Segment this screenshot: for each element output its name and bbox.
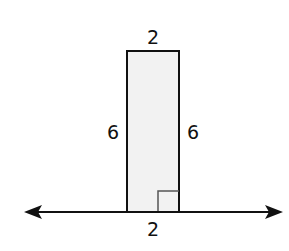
rectangle <box>127 51 179 212</box>
label-bottom: 2 <box>147 218 159 240</box>
label-top: 2 <box>147 26 159 48</box>
diagram-canvas: 2 6 6 2 <box>0 0 289 251</box>
label-left: 6 <box>107 121 119 143</box>
label-right: 6 <box>187 121 199 143</box>
